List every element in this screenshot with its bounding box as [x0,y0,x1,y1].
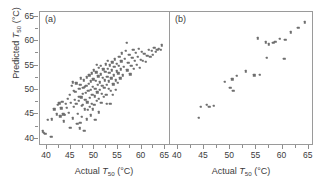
data-point [74,91,76,93]
data-point [59,115,61,117]
data-point [149,56,151,58]
x-tick-mark [141,145,142,149]
data-point [94,87,96,89]
data-point [152,54,154,56]
data-point [65,103,67,105]
data-point [112,83,114,85]
data-point [86,118,88,120]
data-point [61,100,63,102]
figure-container: Predicted T50 (°C) 404550556065 (a) (b) … [0,0,329,186]
data-point [100,65,102,67]
data-point [96,63,98,65]
data-point [150,50,152,52]
data-point [88,105,90,107]
data-point [104,79,106,81]
y-tick-mark [33,16,38,17]
y-tick-mark [33,65,38,66]
data-point [257,37,259,39]
data-point [253,74,255,76]
data-point [57,104,59,106]
data-point [105,94,107,96]
data-point [224,80,226,82]
data-point [303,21,305,23]
data-point [118,64,120,66]
data-point [80,96,82,98]
panel-a-tag: (a) [45,14,56,24]
data-point [297,26,299,28]
y-tick-minor [35,28,38,29]
data-point [69,127,71,129]
data-point [106,76,108,78]
x-tick-label: 60 [136,150,145,160]
data-point [70,85,72,87]
x-tick-label: 50 [224,150,233,160]
x-tick-label: 45 [65,150,74,160]
data-point [232,90,234,92]
x-axis-units-b: (°C) [252,166,271,176]
x-tick-mark [46,145,47,149]
data-point [109,64,111,66]
data-point [97,75,99,77]
data-point [229,86,231,88]
x-tick-label: 45 [198,150,207,160]
x-tick-mark [117,145,118,149]
data-point [245,70,247,72]
data-point [99,73,101,75]
x-tick-mark [308,145,309,149]
data-point [108,72,110,74]
data-point [123,58,125,60]
data-point [120,68,122,70]
data-point [103,87,105,89]
x-tick-mark [164,145,165,149]
x-tick-minor [190,145,191,148]
x-tick-label: 60 [277,150,286,160]
data-point [75,82,77,84]
panel-a-x-axis-label: Actual T50 (°C) [75,166,134,176]
data-point [135,52,137,54]
data-point [79,122,81,124]
x-axis-label-prefix-a: Actual [75,166,103,176]
data-point [51,118,53,120]
data-point [98,98,100,100]
data-point [145,60,147,62]
data-point [86,76,88,78]
data-point [81,116,83,118]
data-point [78,99,80,101]
data-point [66,107,68,109]
data-point [111,69,113,71]
data-point [159,48,161,50]
y-tick-label-group: 404550556065 [14,0,34,186]
data-point [97,67,99,69]
data-point [72,117,74,119]
data-point [124,50,126,52]
data-point [109,103,111,105]
x-tick-minor [242,145,243,148]
x-tick-mark [282,145,283,149]
x-tick-mark [229,145,230,149]
data-point [111,61,113,63]
data-point [90,114,92,116]
data-point [133,67,135,69]
data-point [274,41,276,43]
y-tick-minor [35,101,38,102]
data-point [55,113,57,115]
x-tick-label: 50 [89,150,98,160]
data-point [95,80,97,82]
data-point [96,91,98,93]
data-point [89,89,91,91]
data-point [90,80,92,82]
data-point [290,31,292,33]
x-tick-label: 55 [251,150,260,160]
data-point [122,74,124,76]
data-point [113,74,115,76]
data-point [110,77,112,79]
scatter-panel-b: (b) [169,11,313,145]
data-point [107,60,109,62]
data-point [79,127,81,129]
scatter-panel-a: (a) [39,11,169,145]
data-point [105,63,107,65]
data-point [95,71,97,73]
data-point [83,130,85,132]
data-point [70,101,72,103]
data-point [119,77,121,79]
